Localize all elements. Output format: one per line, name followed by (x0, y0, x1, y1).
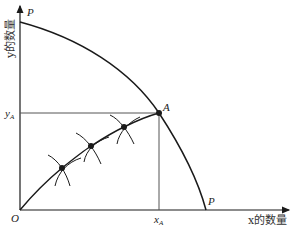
contract-curve (20, 113, 159, 210)
ppf-label-top: P (26, 6, 34, 18)
origin-label: O (11, 212, 19, 224)
tangency-point-3 (110, 115, 140, 144)
point-A-label: A (162, 101, 170, 113)
point-A (156, 110, 162, 116)
y-axis-label: y的数量 (3, 19, 17, 59)
tangency-point-1 (48, 155, 81, 186)
ppf-label-right: P (207, 195, 215, 207)
ppf-diagram: y的数量 x的数量 O P P A yA xA (0, 0, 293, 228)
x-A-label: xA (153, 213, 164, 227)
x-axis-label: x的数量 (248, 213, 287, 227)
y-A-label: yA (4, 107, 15, 121)
